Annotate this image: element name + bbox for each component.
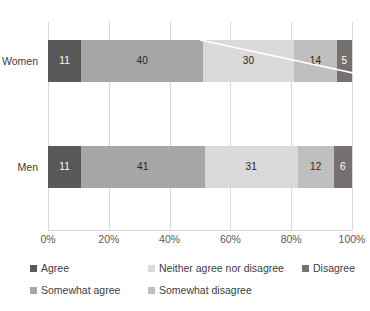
category-axis: Women Men xyxy=(0,22,44,230)
category-label-men: Men xyxy=(18,161,38,173)
bar-segment[interactable]: 5 xyxy=(337,40,352,82)
legend-swatch-icon xyxy=(148,287,155,294)
bar-segment[interactable]: 11 xyxy=(48,146,81,188)
bar-value-label: 40 xyxy=(136,56,148,66)
legend-label: Somewhat agree xyxy=(41,284,120,296)
bar-value-label: 31 xyxy=(245,162,257,172)
bar-value-label: 41 xyxy=(137,162,149,172)
legend-row: Somewhat agreeSomewhat disagree xyxy=(30,284,366,306)
legend-row: AgreeNeither agree nor disagreeDisagree xyxy=(30,262,366,284)
legend-label: Somewhat disagree xyxy=(159,284,252,296)
bar-value-label: 5 xyxy=(341,56,347,66)
legend-item[interactable]: Neither agree nor disagree xyxy=(148,262,284,274)
legend-swatch-icon xyxy=(148,265,155,272)
axis-tick-label: 100% xyxy=(339,233,366,245)
bar-value-label: 14 xyxy=(310,56,322,66)
legend-swatch-icon xyxy=(30,287,37,294)
bar-segment[interactable]: 31 xyxy=(205,146,298,188)
legend-label: Agree xyxy=(41,262,69,274)
legend-label: Neither agree nor disagree xyxy=(159,262,284,274)
bar-value-label: 12 xyxy=(310,162,322,172)
stacked-bar-chart: Women Men 114030145114131126 0%20%40%60%… xyxy=(0,0,370,311)
category-label-women: Women xyxy=(2,55,38,67)
bar-row[interactable]: 114131126 xyxy=(48,146,352,188)
legend-item[interactable]: Somewhat agree xyxy=(30,284,120,296)
axis-tick-label: 20% xyxy=(98,233,119,245)
bar-segment[interactable]: 14 xyxy=(294,40,337,82)
bar-value-label: 11 xyxy=(59,56,70,66)
value-axis-line xyxy=(48,230,352,231)
bar-segment[interactable]: 11 xyxy=(48,40,81,82)
bar-segment[interactable]: 12 xyxy=(298,146,334,188)
bar-value-label: 11 xyxy=(59,162,70,172)
legend-label: Disagree xyxy=(313,262,355,274)
bar-value-label: 30 xyxy=(243,56,255,66)
value-axis-ticks: 0%20%40%60%80%100% xyxy=(0,233,370,249)
legend-swatch-icon xyxy=(30,265,37,272)
bar-segment[interactable]: 6 xyxy=(334,146,352,188)
bar-segment[interactable]: 41 xyxy=(81,146,204,188)
bar-series-container: 114030145114131126 xyxy=(48,22,352,230)
legend-item[interactable]: Agree xyxy=(30,262,69,274)
legend: AgreeNeither agree nor disagreeDisagreeS… xyxy=(30,262,366,306)
axis-tick-label: 0% xyxy=(40,233,55,245)
bar-segment[interactable]: 30 xyxy=(203,40,294,82)
axis-tick-label: 80% xyxy=(281,233,302,245)
bar-segment[interactable]: 40 xyxy=(81,40,203,82)
legend-item[interactable]: Disagree xyxy=(302,262,355,274)
bar-value-label: 6 xyxy=(340,162,346,172)
legend-swatch-icon xyxy=(302,265,309,272)
axis-tick-label: 60% xyxy=(220,233,241,245)
bar-row[interactable]: 114030145 xyxy=(48,40,352,82)
gridline-100 xyxy=(352,22,353,230)
legend-item[interactable]: Somewhat disagree xyxy=(148,284,252,296)
axis-tick-label: 40% xyxy=(159,233,180,245)
plot-area: 114030145114131126 xyxy=(48,22,352,230)
